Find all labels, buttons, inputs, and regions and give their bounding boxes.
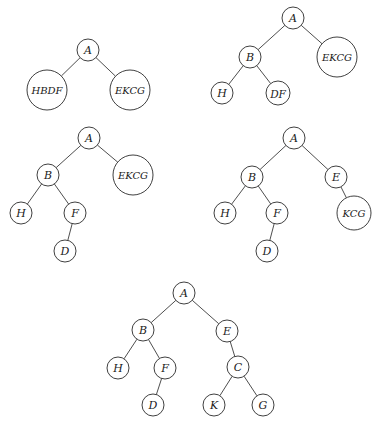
tree-node-df: DF [266, 81, 290, 105]
edge-f-d [270, 224, 274, 241]
edges [27, 145, 117, 240]
tree-node-e: E [325, 166, 347, 188]
edge-a-b [258, 25, 285, 49]
edge-a-b [151, 300, 176, 322]
tree-step-4: ABEHFKCGD [214, 127, 371, 262]
edge-e-kcg [341, 187, 346, 198]
tree-node-f: F [64, 202, 86, 224]
node-label: B [245, 51, 254, 64]
node-label: EKCG [114, 85, 145, 96]
tree-node-b: B [132, 319, 154, 341]
tree-node-g: G [252, 394, 274, 416]
edges [232, 145, 347, 240]
edge-b-h [27, 184, 41, 204]
node-label: F [160, 362, 169, 375]
edge-f-d [68, 224, 72, 241]
edge-e-c [230, 342, 235, 357]
tree-node-c: C [227, 356, 249, 378]
tree-node-a: A [78, 127, 100, 149]
tree-node-a: A [283, 127, 305, 149]
binary-tree-construction-diagram: AHBDFEKCG ABEKCGHDF ABEKCGHFD ABEHFKCGD … [0, 0, 375, 429]
tree-node-ekcg: EKCG [113, 155, 153, 195]
node-label: A [179, 287, 188, 300]
edge-a-ekcg [301, 25, 322, 43]
tree-node-b: B [37, 164, 59, 186]
tree-node-ekcg: EKCG [317, 37, 357, 77]
node-label: EKCG [321, 52, 352, 63]
edge-a-b [260, 145, 286, 169]
node-label: D [148, 399, 158, 412]
edge-a-e [192, 300, 219, 323]
node-label: G [259, 399, 268, 412]
tree-node-e: E [216, 320, 238, 342]
node-label: A [83, 44, 92, 57]
tree-node-f: F [154, 357, 176, 379]
edge-a-ekcg [96, 58, 116, 77]
tree-node-a: A [282, 7, 304, 29]
tree-node-hbdf: HBDF [27, 70, 67, 110]
edge-b-h [124, 339, 137, 359]
node-label: A [288, 12, 297, 25]
tree-node-h: H [10, 202, 32, 224]
tree-node-f: F [266, 202, 288, 224]
tree-node-h: H [107, 357, 129, 379]
node-label: C [234, 361, 243, 374]
node-label: D [60, 245, 70, 258]
edge-a-ekcg [97, 145, 117, 162]
node-label: EKCG [117, 170, 148, 181]
node-label: K [209, 399, 219, 412]
node-label: E [222, 325, 231, 338]
tree-node-k: K [203, 394, 225, 416]
edge-a-e [302, 145, 328, 169]
edge-b-h [232, 186, 246, 204]
edge-c-k [220, 376, 232, 395]
tree-step-2: ABEKCGHDF [211, 7, 357, 105]
node-label: B [43, 169, 52, 182]
node-label: F [70, 207, 79, 220]
tree-node-b: B [241, 166, 263, 188]
tree-node-ekcg: EKCG [110, 70, 150, 110]
edge-b-f [54, 184, 68, 204]
node-label: KCG [342, 208, 366, 219]
node-label: B [247, 171, 256, 184]
node-label: H [112, 362, 123, 375]
node-label: H [15, 207, 26, 220]
edge-a-hbdf [61, 58, 80, 76]
tree-node-h: H [214, 202, 236, 224]
tree-node-a: A [173, 282, 195, 304]
node-label: E [331, 171, 340, 184]
node-label: HBDF [30, 85, 63, 96]
edge-b-f [258, 186, 270, 204]
tree-node-d: D [256, 240, 278, 262]
tree-node-kcg: KCG [337, 196, 371, 230]
node-label: H [219, 207, 230, 220]
node-label: F [272, 207, 281, 220]
edge-a-b [56, 145, 81, 167]
node-label: A [84, 132, 93, 145]
node-label: H [216, 87, 227, 100]
tree-node-h: H [211, 82, 233, 104]
node-label: DF [269, 88, 286, 100]
tree-step-1: AHBDFEKCG [27, 39, 150, 110]
edge-c-g [244, 376, 257, 396]
edge-b-f [149, 340, 160, 359]
tree-step-5: ABEHFCDKG [107, 282, 274, 416]
node-label: B [138, 324, 147, 337]
node-label: D [262, 245, 272, 258]
edge-f-d [156, 378, 161, 394]
tree-node-a: A [77, 39, 99, 61]
tree-node-b: B [239, 46, 261, 68]
node-label: A [289, 132, 298, 145]
edge-b-h [229, 66, 244, 85]
edge-b-df [257, 66, 271, 84]
edges [124, 300, 257, 396]
tree-step-3: ABEKCGHFD [10, 127, 153, 262]
tree-node-d: D [142, 394, 164, 416]
tree-node-d: D [54, 240, 76, 262]
